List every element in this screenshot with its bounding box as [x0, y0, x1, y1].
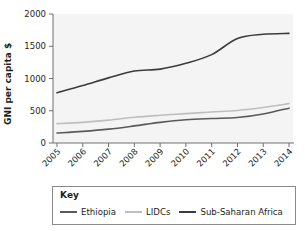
x-tick-label: 2008 [117, 146, 139, 168]
x-tick-label: 2014 [272, 146, 294, 168]
x-tick-label: 2006 [66, 146, 88, 168]
y-axis-title: GNI per capita $ [3, 43, 13, 125]
legend-item-label: LIDCs [146, 207, 170, 217]
line-chart: GNI per capita $ 0500100015002000 200520… [0, 0, 305, 185]
y-tick-label: 1000 [24, 74, 46, 84]
legend-line-swatch [125, 211, 142, 213]
legend-item-label: Ethiopia [81, 207, 116, 217]
legend-item-lidcs[interactable]: LIDCs [125, 207, 170, 217]
chart-legend: Key EthiopiaLIDCsSub-Saharan Africa [52, 186, 296, 225]
x-axis-ticks: 2005200620072008200920102011201220132014 [40, 143, 294, 169]
y-axis-ticks: 0500100015002000 [24, 9, 53, 148]
x-tick-label: 2010 [169, 146, 191, 168]
y-tick-label: 500 [30, 106, 46, 116]
x-tick-label: 2013 [246, 146, 268, 168]
chart-figure: GNI per capita $ 0500100015002000 200520… [0, 0, 305, 231]
chart-canvas: GNI per capita $ 0500100015002000 200520… [0, 0, 305, 185]
x-tick-label: 2009 [143, 146, 165, 168]
y-tick-label: 1500 [24, 41, 46, 51]
y-tick-label: 0 [41, 138, 46, 148]
y-tick-label: 2000 [24, 9, 46, 19]
legend-title: Key [60, 190, 79, 200]
legend-line-swatch [60, 211, 77, 213]
legend-item-sub-saharan-africa[interactable]: Sub-Saharan Africa [179, 207, 282, 217]
plot-background [53, 14, 293, 143]
legend-item-ethiopia[interactable]: Ethiopia [60, 207, 116, 217]
legend-item-label: Sub-Saharan Africa [200, 207, 282, 217]
x-tick-label: 2005 [40, 146, 62, 168]
x-tick-label: 2011 [195, 146, 217, 168]
x-tick-label: 2012 [220, 146, 242, 168]
legend-entries: EthiopiaLIDCsSub-Saharan Africa [60, 207, 291, 217]
x-tick-label: 2007 [92, 146, 114, 168]
legend-line-swatch [179, 211, 196, 213]
